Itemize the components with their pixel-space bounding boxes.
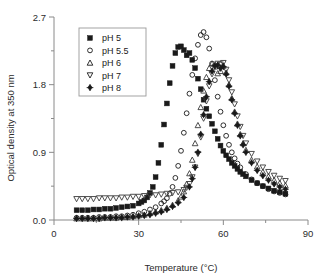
data-point-open-triangle-down	[170, 191, 176, 196]
data-point-filled-diamond-plus	[243, 149, 250, 156]
marker-square	[187, 51, 192, 56]
x-tick-label: 30	[133, 228, 144, 239]
marker-triangle-down	[102, 196, 108, 201]
data-point-open-triangle-down	[136, 194, 142, 199]
marker-triangle-down	[266, 169, 272, 174]
marker-square	[156, 160, 161, 165]
data-point-filled-diamond-plus	[223, 71, 230, 78]
data-point-open-circle	[229, 150, 234, 155]
marker-square	[125, 204, 130, 209]
data-point-open-triangle-down	[113, 196, 119, 201]
data-point-open-triangle-down	[271, 173, 277, 178]
marker-square	[196, 76, 201, 81]
data-point-filled-diamond-plus	[248, 159, 255, 166]
marker-triangle-down	[74, 197, 80, 202]
x-tick-label: 90	[303, 228, 314, 239]
marker-square	[162, 122, 167, 127]
marker-triangle-up	[192, 141, 198, 146]
data-point-filled-square	[167, 81, 172, 86]
data-point-filled-diamond-plus	[195, 149, 202, 156]
legend-item-label: pH 5.5	[102, 46, 129, 56]
data-point-open-triangle-down	[102, 196, 108, 201]
marker-circle	[215, 94, 220, 99]
data-point-open-triangle-down	[226, 78, 232, 83]
marker-circle	[179, 148, 184, 153]
marker-square	[170, 63, 175, 68]
data-point-filled-square	[119, 205, 124, 210]
marker-circle	[201, 30, 206, 35]
figure-container: 03060900.00.91.82.7 pH 5pH 5.5pH 6pH 7pH…	[0, 0, 331, 279]
data-point-open-circle	[232, 156, 237, 161]
marker-square	[218, 143, 223, 148]
marker-triangle-down	[119, 195, 125, 200]
data-point-filled-diamond-plus	[234, 122, 241, 129]
data-point-open-triangle-down	[108, 196, 114, 201]
marker-circle	[196, 42, 201, 47]
legend-item-label: pH 8	[102, 83, 121, 93]
data-point-open-triangle-up	[198, 104, 204, 109]
marker-square	[210, 121, 215, 126]
data-point-filled-diamond-plus	[197, 131, 204, 138]
data-point-open-circle	[184, 111, 189, 116]
data-point-open-circle	[215, 94, 220, 99]
data-point-filled-square	[85, 208, 90, 213]
data-point-filled-square	[88, 36, 93, 41]
marker-triangle-down	[226, 78, 232, 83]
marker-circle	[170, 185, 175, 190]
y-axis-title: Optical density at 350 nm	[5, 74, 16, 181]
marker-circle	[212, 78, 217, 83]
data-point-open-triangle-up	[189, 157, 195, 162]
marker-circle	[198, 33, 203, 38]
data-point-open-triangle-up	[192, 141, 198, 146]
marker-triangle-down	[254, 159, 260, 164]
data-point-filled-square	[218, 143, 223, 148]
marker-circle	[173, 175, 178, 180]
marker-square	[193, 66, 198, 71]
data-point-filled-square	[162, 122, 167, 127]
marker-square	[97, 207, 102, 212]
marker-circle	[207, 46, 212, 51]
marker-square	[181, 48, 186, 53]
marker-square	[167, 81, 172, 86]
data-point-filled-square	[181, 48, 186, 53]
data-point-open-circle	[201, 30, 206, 35]
marker-circle	[227, 142, 232, 147]
marker-square	[131, 203, 136, 208]
data-point-filled-square	[193, 66, 198, 71]
data-point-open-circle	[227, 142, 232, 147]
data-point-filled-square	[215, 136, 220, 141]
data-point-filled-square	[170, 63, 175, 68]
marker-square	[204, 106, 209, 111]
data-point-filled-square	[221, 148, 226, 153]
marker-square	[159, 142, 164, 147]
data-point-filled-square	[97, 207, 102, 212]
data-point-open-triangle-down	[283, 179, 289, 184]
marker-triangle-down	[229, 90, 235, 95]
marker-square	[164, 101, 169, 106]
data-point-filled-square	[153, 175, 158, 180]
marker-triangle-down	[136, 194, 142, 199]
data-point-filled-diamond-plus	[175, 199, 182, 206]
marker-square	[91, 207, 96, 212]
data-point-open-triangle-down	[260, 165, 266, 170]
data-point-filled-square	[173, 51, 178, 56]
data-point-open-triangle-down	[266, 169, 272, 174]
marker-triangle-down	[283, 179, 289, 184]
marker-square	[80, 208, 85, 213]
data-point-open-circle	[224, 133, 229, 138]
marker-triangle-down	[125, 195, 131, 200]
marker-circle	[218, 109, 223, 114]
data-point-open-triangle-down	[254, 159, 260, 164]
marker-triangle-down	[170, 191, 176, 196]
data-point-filled-square	[187, 51, 192, 56]
data-point-filled-square	[210, 121, 215, 126]
data-point-filled-square	[207, 114, 212, 119]
data-point-open-triangle-down	[74, 197, 80, 202]
data-point-filled-square	[150, 185, 155, 190]
marker-triangle-down	[175, 190, 181, 195]
marker-triangle-down	[153, 193, 159, 198]
data-point-filled-square	[131, 203, 136, 208]
marker-square	[212, 129, 217, 134]
data-point-open-circle	[181, 130, 186, 135]
marker-triangle-down	[130, 194, 136, 199]
